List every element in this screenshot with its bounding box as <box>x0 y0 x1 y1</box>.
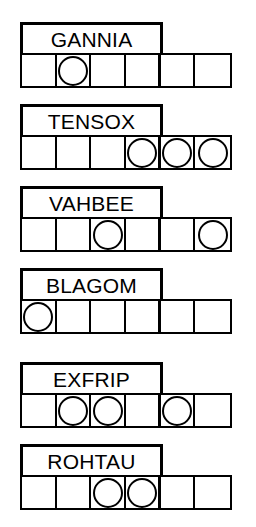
answer-cell-filled[interactable] <box>195 219 230 250</box>
row-label-text: EXFRIP <box>53 368 130 389</box>
circle-token-icon <box>127 138 157 168</box>
answer-cell-empty[interactable] <box>22 137 57 168</box>
answer-cell-empty[interactable] <box>195 395 230 426</box>
answer-cell-filled[interactable] <box>91 219 126 250</box>
circle-token-icon <box>198 220 228 250</box>
answer-cell-empty[interactable] <box>161 55 196 86</box>
circle-token-icon <box>162 396 192 426</box>
answer-cell-filled[interactable] <box>91 477 126 508</box>
puzzle-row: BLAGOM <box>20 268 232 334</box>
puzzle-row: ROHTAU <box>20 444 232 510</box>
puzzle-row: VAHBEE <box>20 186 232 252</box>
answer-cell-strip <box>20 475 232 510</box>
answer-cell-empty[interactable] <box>195 301 230 332</box>
answer-cell-filled[interactable] <box>126 137 161 168</box>
row-label-box: GANNIA <box>20 22 163 55</box>
answer-cell-empty[interactable] <box>22 219 57 250</box>
puzzle-row: EXFRIP <box>20 362 232 428</box>
row-label-box: VAHBEE <box>20 186 163 219</box>
row-label-text: GANNIA <box>51 28 133 49</box>
puzzle-row: GANNIA <box>20 22 232 88</box>
answer-cell-empty[interactable] <box>57 219 92 250</box>
answer-cell-strip <box>20 393 232 428</box>
answer-cell-empty[interactable] <box>161 477 196 508</box>
answer-cell-empty[interactable] <box>195 477 230 508</box>
answer-cell-filled[interactable] <box>126 477 161 508</box>
row-label-text: ROHTAU <box>47 450 135 471</box>
answer-cell-filled[interactable] <box>22 301 57 332</box>
circle-token-icon <box>58 396 88 426</box>
row-label-box: EXFRIP <box>20 362 163 395</box>
puzzle-board: GANNIATENSOXVAHBEEBLAGOMEXFRIPROHTAU <box>0 0 256 527</box>
answer-cell-empty[interactable] <box>57 477 92 508</box>
answer-cell-empty[interactable] <box>57 137 92 168</box>
circle-token-icon <box>93 396 123 426</box>
answer-cell-filled[interactable] <box>91 395 126 426</box>
answer-cell-filled[interactable] <box>195 137 230 168</box>
puzzle-row: TENSOX <box>20 104 232 170</box>
answer-cell-empty[interactable] <box>195 55 230 86</box>
answer-cell-filled[interactable] <box>57 55 92 86</box>
answer-cell-empty[interactable] <box>22 477 57 508</box>
answer-cell-strip <box>20 53 232 88</box>
answer-cell-empty[interactable] <box>57 301 92 332</box>
answer-cell-empty[interactable] <box>91 55 126 86</box>
answer-cell-empty[interactable] <box>161 219 196 250</box>
answer-cell-filled[interactable] <box>57 395 92 426</box>
row-label-box: BLAGOM <box>20 268 163 301</box>
circle-token-icon <box>93 220 123 250</box>
circle-token-icon <box>198 138 228 168</box>
answer-cell-empty[interactable] <box>91 137 126 168</box>
answer-cell-strip <box>20 135 232 170</box>
circle-token-icon <box>162 138 192 168</box>
row-label-text: BLAGOM <box>46 274 137 295</box>
answer-cell-strip <box>20 299 232 334</box>
answer-cell-filled[interactable] <box>161 137 196 168</box>
row-label-box: ROHTAU <box>20 444 163 477</box>
answer-cell-empty[interactable] <box>126 395 161 426</box>
row-label-box: TENSOX <box>20 104 163 137</box>
answer-cell-empty[interactable] <box>22 55 57 86</box>
answer-cell-empty[interactable] <box>126 219 161 250</box>
circle-token-icon <box>23 302 53 332</box>
answer-cell-empty[interactable] <box>161 301 196 332</box>
row-label-text: VAHBEE <box>49 192 134 213</box>
circle-token-icon <box>58 56 88 86</box>
answer-cell-strip <box>20 217 232 252</box>
answer-cell-empty[interactable] <box>126 55 161 86</box>
circle-token-icon <box>127 478 157 508</box>
row-label-text: TENSOX <box>48 110 136 131</box>
answer-cell-empty[interactable] <box>126 301 161 332</box>
answer-cell-empty[interactable] <box>91 301 126 332</box>
answer-cell-empty[interactable] <box>22 395 57 426</box>
answer-cell-filled[interactable] <box>161 395 196 426</box>
circle-token-icon <box>93 478 123 508</box>
